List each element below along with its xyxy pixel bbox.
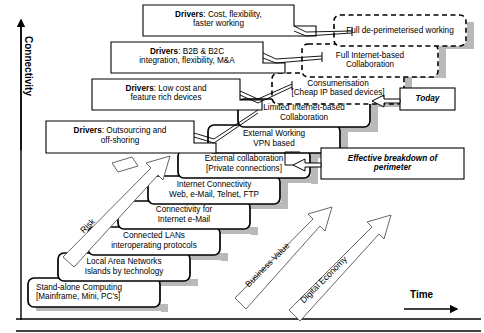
step-full-internet-collaboration-label: Full Internet-basedCollaboration <box>302 51 438 70</box>
step-consumerisation-label: Consumerisation[Cheap IP based devices] <box>272 79 404 98</box>
small-hollow-arrow <box>112 157 138 172</box>
step-external-working-vpn-line1: External Working <box>208 129 340 139</box>
callout-drivers-outsourcing-prefix: Drivers <box>74 126 102 135</box>
step-consumerisation-line1: Consumerisation <box>272 79 404 89</box>
step-limited-internet-collaboration-line2: Collaboration <box>238 113 370 123</box>
callout-drivers-low-cost-line1: Drivers: Low cost and <box>92 84 240 94</box>
annotation-effective-breakdown-of-perimeter-line1: Effective breakdown of <box>321 154 464 164</box>
step-connected-lans-label: Connected LANsinteroperating protocols <box>88 231 220 250</box>
callout-drivers-cost-flexibility-line2: faster working <box>143 19 294 29</box>
callout-drivers-b2b-b2c-line1: Drivers: B2B & B2C <box>111 47 263 57</box>
callout-drivers-outsourcing-label: Drivers: Outsourcing andoff-shoring <box>46 126 194 145</box>
step-external-working-vpn-line2: VPN based <box>208 139 340 149</box>
diagram-canvas: Stand-alone Computing[Mainframe, Mini, P… <box>0 0 484 333</box>
step-limited-internet-collaboration-line1: Limited Internet-based <box>238 103 370 113</box>
callout-drivers-b2b-b2c-line1-rest: : B2B & B2C <box>178 47 224 56</box>
callout-drivers-b2b-b2c-label: Drivers: B2B & B2Cintegration, flexibili… <box>111 47 263 66</box>
step-internet-connectivity-line2: Web, e-Mail, Telnet, FTP <box>148 190 280 200</box>
annotation-today-label: Today <box>400 94 455 104</box>
step-stand-alone-computing-line2: [Mainframe, Mini, PC's] <box>36 292 156 302</box>
step-stand-alone-computing-line1: Stand-alone Computing <box>36 283 156 293</box>
y-axis-label: Connectivity <box>23 36 34 96</box>
step-external-collaboration-label: External collaboration[Private connectio… <box>178 154 310 173</box>
step-external-collaboration-line1: External collaboration <box>178 154 310 164</box>
annotation-effective-breakdown-of-perimeter-label: Effective breakdown ofperimeter <box>321 154 464 173</box>
step-full-internet-collaboration-line2: Collaboration <box>302 60 438 70</box>
step-internet-connectivity-line1: Internet Connectivity <box>148 180 280 190</box>
callout-drivers-cost-flexibility-line1: Drivers: Cost, flexibility, <box>143 10 294 20</box>
step-connectivity-internet-email-line1: Connectivity for <box>118 205 250 215</box>
step-limited-internet-collaboration-label: Limited Internet-basedCollaboration <box>238 103 370 122</box>
callout-drivers-cost-flexibility-prefix: Drivers <box>175 10 203 19</box>
callout-drivers-b2b-b2c-line2: integration, flexibility, M&A <box>111 56 263 66</box>
callout-drivers-low-cost-line2: feature rich devices <box>92 93 240 103</box>
step-connectivity-internet-email-label: Connectivity forInternet e-Mail <box>118 205 250 224</box>
callout-drivers-outsourcing-line2: off-shoring <box>46 136 194 146</box>
step-stand-alone-computing-label: Stand-alone Computing[Mainframe, Mini, P… <box>36 283 156 302</box>
step-local-area-networks-line2: Islands by technology <box>58 267 190 277</box>
step-local-area-networks-label: Local Area NetworksIslands by technology <box>58 257 190 276</box>
annotation-today-line1: Today <box>400 94 455 104</box>
callout-drivers-low-cost-line1-rest: : Low cost and <box>154 84 207 93</box>
x-axis-label: Time <box>410 289 433 300</box>
callout-drivers-low-cost-label: Drivers: Low cost andfeature rich device… <box>92 84 240 103</box>
callout-drivers-b2b-b2c-prefix: Drivers <box>150 47 178 56</box>
callout-drivers-outsourcing-line1-rest: : Outsourcing and <box>102 126 167 135</box>
step-external-working-vpn-label: External WorkingVPN based <box>208 129 340 148</box>
callout-drivers-low-cost-prefix: Drivers <box>125 84 153 93</box>
step-local-area-networks-line1: Local Area Networks <box>58 257 190 267</box>
step-full-internet-collaboration-line1: Full Internet-based <box>302 51 438 61</box>
step-external-collaboration-line2: [Private connections] <box>178 164 310 174</box>
step-connected-lans-line1: Connected LANs <box>88 231 220 241</box>
callout-drivers-cost-flexibility-label: Drivers: Cost, flexibility,faster workin… <box>143 10 294 29</box>
step-internet-connectivity-label: Internet ConnectivityWeb, e-Mail, Telnet… <box>148 180 280 199</box>
step-full-de-perimeterised-working-line1: Full de-perimeterised working <box>334 26 466 36</box>
step-consumerisation-line2: [Cheap IP based devices] <box>272 88 404 98</box>
callout-drivers-outsourcing-line1: Drivers: Outsourcing and <box>46 126 194 136</box>
step-full-de-perimeterised-working-label: Full de-perimeterised working <box>334 26 466 36</box>
step-connectivity-internet-email-line2: Internet e-Mail <box>118 215 250 225</box>
annotation-effective-breakdown-of-perimeter-line2: perimeter <box>321 163 464 173</box>
step-connected-lans-line2: interoperating protocols <box>88 241 220 251</box>
callout-drivers-cost-flexibility-line1-rest: : Cost, flexibility, <box>203 10 262 19</box>
